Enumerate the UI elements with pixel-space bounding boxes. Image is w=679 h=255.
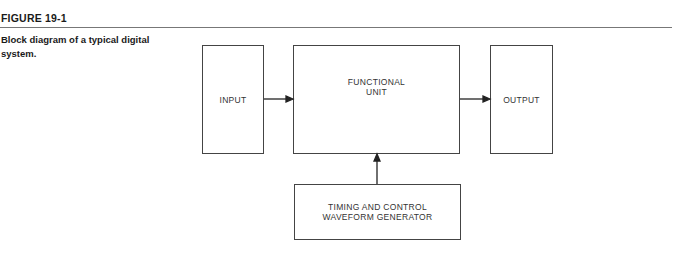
- arrowhead-icon: [286, 96, 293, 102]
- connection-arrows: [0, 0, 679, 255]
- arrowhead-icon: [374, 154, 380, 161]
- arrowhead-icon: [483, 96, 490, 102]
